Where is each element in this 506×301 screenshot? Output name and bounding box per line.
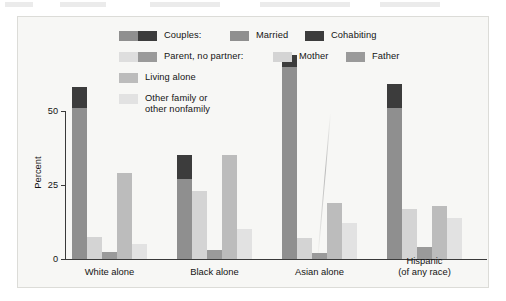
legend-item-other-family[interactable]: Other family or other nonfamily bbox=[119, 93, 210, 114]
legend-label-parent-no-partner: Parent, no partner: bbox=[164, 52, 243, 61]
x-axis-labels: White aloneBlack aloneAsian aloneHispani… bbox=[18, 17, 490, 289]
chart-figure-panel: 50 25 0 Percent White aloneBlack aloneAs… bbox=[17, 16, 489, 288]
legend-label-cohabiting: Cohabiting bbox=[331, 31, 376, 40]
legend-swatch-mother-pair bbox=[119, 52, 138, 62]
legend-label-other-family: Other family or other nonfamily bbox=[145, 93, 210, 114]
legend-label-couples: Couples: bbox=[164, 31, 202, 40]
legend-label-mother: Mother bbox=[299, 52, 329, 61]
legend-swatch-married-pair bbox=[119, 31, 138, 41]
x-axis-label-hispanic-of-any-race-: Hispanic(of any race) bbox=[360, 255, 490, 277]
legend-swatch-father-pair bbox=[138, 52, 157, 62]
legend-row-couples[interactable]: Couples: bbox=[119, 31, 202, 41]
legend-swatch-cohabiting-pair bbox=[138, 31, 157, 41]
x-axis-label-line: Hispanic bbox=[360, 255, 490, 266]
scan-artifact bbox=[0, 0, 506, 14]
legend-swatch-father bbox=[346, 52, 365, 62]
legend-label-other-family-line2: other nonfamily bbox=[145, 104, 210, 114]
legend-item-cohabiting[interactable]: Cohabiting bbox=[305, 31, 376, 41]
x-axis-label-line: (of any race) bbox=[360, 266, 490, 277]
legend-item-father[interactable]: Father bbox=[346, 52, 399, 62]
legend-swatch-other-family bbox=[119, 94, 138, 104]
plot-area: 50 25 0 Percent White aloneBlack aloneAs… bbox=[18, 17, 490, 289]
legend-label-married: Married bbox=[256, 31, 288, 40]
legend-label-father: Father bbox=[372, 52, 399, 61]
legend-item-married[interactable]: Married bbox=[230, 31, 288, 41]
legend-item-living-alone[interactable]: Living alone bbox=[119, 73, 196, 83]
legend-swatch-married bbox=[230, 31, 249, 41]
legend-swatch-cohabiting bbox=[305, 31, 324, 41]
legend-swatch-living-alone bbox=[119, 73, 138, 83]
legend-row-parent-no-partner[interactable]: Parent, no partner: bbox=[119, 52, 243, 62]
legend-label-other-family-line1: Other family or bbox=[145, 93, 207, 103]
legend-item-mother[interactable]: Mother bbox=[273, 52, 329, 62]
legend-swatch-mother bbox=[273, 52, 292, 62]
legend-label-living-alone: Living alone bbox=[145, 73, 196, 82]
